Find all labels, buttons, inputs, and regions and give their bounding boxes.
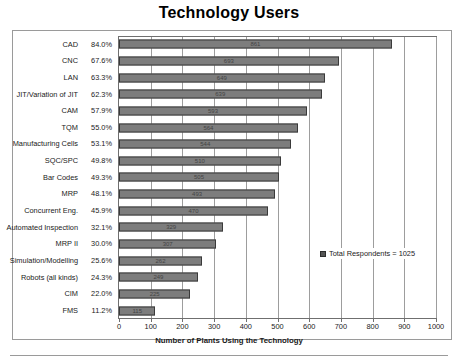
category-label: Automated Inspection [0, 224, 78, 231]
category-label: MRP II [0, 240, 78, 247]
bar-value-label: 693 [224, 58, 234, 64]
category-label: LAN [0, 74, 78, 81]
bar-track: 544 [119, 136, 436, 153]
x-axis-tick-label: 100 [145, 322, 157, 331]
bar-value-label: 544 [200, 141, 210, 147]
category-label: Robots (all kinds) [0, 274, 78, 281]
bar-row: JIT/Variation of JIT62.3%639 [0, 86, 458, 103]
category-label: Bar Codes [0, 174, 78, 181]
category-percent: 49.8% [80, 157, 112, 164]
category-percent: 22.0% [80, 290, 112, 297]
category-percent: 63.3% [80, 74, 112, 81]
category-percent: 53.1% [80, 140, 112, 147]
x-axis-tick-label: 800 [366, 322, 378, 331]
bar-row: Concurrent Eng.45.9%470 [0, 202, 458, 219]
bar-track: 505 [119, 169, 436, 186]
bar-value-label: 861 [250, 41, 260, 47]
bar-value-label: 307 [163, 241, 173, 247]
bar-row: Automated Inspection32.1%329 [0, 219, 458, 236]
category-percent: 45.9% [80, 207, 112, 214]
x-axis-tick-label: 900 [398, 322, 410, 331]
bar-track: 693 [119, 53, 436, 70]
bar-row: Bar Codes49.3%505 [0, 169, 458, 186]
bottom-divider [10, 355, 448, 356]
x-axis-tick-label: 400 [240, 322, 252, 331]
category-percent: 57.9% [80, 107, 112, 114]
bar-value-label: 649 [217, 75, 227, 81]
bar-track: 115 [119, 302, 436, 319]
bar-value-label: 593 [208, 108, 218, 114]
bar-track: 649 [119, 69, 436, 86]
category-label: Simulation/Modelling [0, 257, 78, 264]
bar-track: 470 [119, 202, 436, 219]
bar-row: CIM22.0%225 [0, 286, 458, 303]
bar-row: CAD84.0%861 [0, 36, 458, 53]
bar-value-label: 329 [166, 224, 176, 230]
legend-label: Total Respondents = 1025 [329, 249, 415, 258]
bar-value-label: 262 [156, 258, 166, 264]
bar-track: 564 [119, 119, 436, 136]
category-label: JIT/Variation of JIT [0, 91, 78, 98]
bar-track: 639 [119, 86, 436, 103]
bar-value-label: 470 [188, 208, 198, 214]
category-percent: 48.1% [80, 190, 112, 197]
category-label: SQC/SPC [0, 157, 78, 164]
x-axis-tick-label: 600 [303, 322, 315, 331]
bar-value-label: 564 [203, 125, 213, 131]
bar-row: CNC67.6%693 [0, 53, 458, 70]
bar-value-label: 510 [195, 158, 205, 164]
category-percent: 55.0% [80, 124, 112, 131]
category-label: Concurrent Eng. [0, 207, 78, 214]
category-percent: 49.3% [80, 174, 112, 181]
bar-track: 249 [119, 269, 436, 286]
bar-track: 225 [119, 286, 436, 303]
legend-swatch-icon [320, 251, 326, 257]
x-axis-tick-label: 500 [271, 322, 283, 331]
category-percent: 30.0% [80, 240, 112, 247]
category-label: CNC [0, 57, 78, 64]
bar-row: Robots (all kinds)24.3%249 [0, 269, 458, 286]
category-percent: 25.6% [80, 257, 112, 264]
bar-value-label: 225 [150, 291, 160, 297]
category-percent: 11.2% [80, 307, 112, 314]
category-label: CAM [0, 107, 78, 114]
x-axis-tick-label: 1000 [428, 322, 444, 331]
bar-row: Manufacturing Cells53.1%544 [0, 136, 458, 153]
chart-legend: Total Respondents = 1025 [318, 248, 417, 259]
bar-track: 493 [119, 186, 436, 203]
category-label: Manufacturing Cells [0, 140, 78, 147]
page-title: Technology Users [0, 4, 458, 22]
bar-rows: CAD84.0%861CNC67.6%693LAN63.3%649JIT/Var… [0, 36, 458, 319]
bar-track: 593 [119, 103, 436, 120]
bar-row: MRP48.1%493 [0, 186, 458, 203]
bar-value-label: 115 [132, 308, 142, 314]
bar-row: TQM55.0%564 [0, 119, 458, 136]
bar-track: 861 [119, 36, 436, 53]
x-axis: 01002003004005006007008009001000 [118, 319, 437, 333]
x-axis-tick-label: 300 [208, 322, 220, 331]
category-percent: 62.3% [80, 91, 112, 98]
bar-value-label: 493 [192, 191, 202, 197]
bar-value-label: 249 [153, 274, 163, 280]
bar-value-label: 505 [194, 174, 204, 180]
category-label: FMS [0, 307, 78, 314]
x-axis-tick-label: 200 [176, 322, 188, 331]
bar-row: LAN63.3%649 [0, 69, 458, 86]
bar-track: 510 [119, 153, 436, 170]
bar-track: 329 [119, 219, 436, 236]
x-axis-title: Number of Plants Using the Technology [0, 336, 458, 345]
bar-row: FMS11.2%115 [0, 302, 458, 319]
category-label: MRP [0, 190, 78, 197]
bar-row: CAM57.9%593 [0, 103, 458, 120]
bar-value-label: 639 [215, 91, 225, 97]
category-percent: 84.0% [80, 41, 112, 48]
x-axis-tick-label: 700 [335, 322, 347, 331]
bar-row: SQC/SPC49.8%510 [0, 153, 458, 170]
category-label: TQM [0, 124, 78, 131]
category-percent: 24.3% [80, 274, 112, 281]
category-percent: 32.1% [80, 224, 112, 231]
category-percent: 67.6% [80, 57, 112, 64]
category-label: CIM [0, 290, 78, 297]
x-axis-tick-label: 0 [117, 322, 121, 331]
category-label: CAD [0, 41, 78, 48]
